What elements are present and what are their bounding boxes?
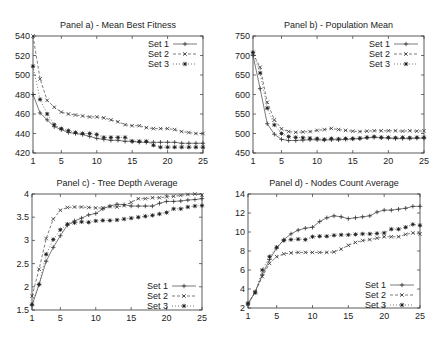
series-set-2 bbox=[251, 52, 426, 134]
data-point-dot bbox=[318, 235, 320, 237]
panel-title: Panel d) - Nodes Count Average bbox=[269, 178, 398, 188]
data-point-dot bbox=[53, 124, 55, 126]
data-point-dot bbox=[259, 72, 261, 74]
y-tick-label: 500 bbox=[235, 129, 250, 139]
series-set-3 bbox=[31, 64, 205, 149]
data-point-dot bbox=[81, 132, 83, 134]
data-point-dot bbox=[74, 131, 76, 133]
data-point-dot bbox=[309, 137, 311, 139]
series-set-2 bbox=[30, 192, 204, 298]
panel-d-nodes-count-average: Panel d) - Nodes Count Average2468101214… bbox=[235, 178, 425, 321]
y-tick-label: 750 bbox=[235, 31, 250, 41]
data-point-dot bbox=[116, 219, 118, 221]
data-point-dot bbox=[247, 302, 249, 304]
data-point-dot bbox=[354, 233, 356, 235]
data-point-dot bbox=[151, 214, 153, 216]
data-point-dot bbox=[109, 219, 111, 221]
y-tick-label: 12 bbox=[235, 208, 245, 218]
data-point-dot bbox=[419, 224, 421, 226]
x-tick-label: 25 bbox=[419, 156, 429, 166]
data-point-dot bbox=[369, 233, 371, 235]
data-point-dot bbox=[202, 146, 204, 148]
x-tick-label: 1 bbox=[245, 311, 250, 321]
y-tick-label: 2.5 bbox=[16, 259, 29, 269]
series-line bbox=[253, 54, 424, 133]
data-point-dot bbox=[280, 132, 282, 134]
data-point-dot bbox=[416, 136, 418, 138]
data-point-dot bbox=[130, 217, 132, 219]
x-tick-label: 15 bbox=[126, 313, 136, 323]
series-line bbox=[253, 52, 424, 139]
data-point-dot bbox=[252, 51, 254, 53]
data-point-dot bbox=[254, 292, 256, 294]
x-tick-label: 10 bbox=[91, 313, 101, 323]
data-point-dot bbox=[52, 238, 54, 240]
data-point-dot bbox=[380, 136, 382, 138]
x-tick-label: 10 bbox=[92, 156, 102, 166]
data-point-dot bbox=[184, 63, 186, 65]
y-tick-label: 450 bbox=[235, 148, 250, 158]
data-point-dot bbox=[181, 146, 183, 148]
data-point-dot bbox=[387, 136, 389, 138]
data-point-dot bbox=[287, 135, 289, 137]
legend-label: Set 1 bbox=[148, 39, 169, 49]
data-point-dot bbox=[32, 65, 34, 67]
data-point-dot bbox=[59, 229, 61, 231]
legend-label: Set 2 bbox=[365, 290, 386, 300]
data-point-dot bbox=[165, 211, 167, 213]
figure: Panel a) - Mean Best Fitness420440460480… bbox=[0, 0, 447, 340]
data-point-dot bbox=[352, 137, 354, 139]
y-tick-label: 10 bbox=[235, 227, 245, 237]
legend-label: Set 3 bbox=[365, 300, 386, 310]
legend: Set 1Set 2Set 3 bbox=[365, 280, 414, 310]
x-tick-label: 1 bbox=[250, 156, 255, 166]
y-tick-label: 2 bbox=[24, 282, 29, 292]
y-tick-label: 520 bbox=[15, 51, 30, 61]
legend-label: Set 2 bbox=[147, 291, 168, 301]
data-point-dot bbox=[194, 205, 196, 207]
y-tick-label: 550 bbox=[235, 109, 250, 119]
series-set-1 bbox=[30, 196, 204, 307]
data-point-dot bbox=[376, 232, 378, 234]
data-point-dot bbox=[373, 135, 375, 137]
data-point-dot bbox=[188, 146, 190, 148]
data-point-dot bbox=[297, 238, 299, 240]
data-point-dot bbox=[273, 124, 275, 126]
x-tick-label: 5 bbox=[59, 156, 64, 166]
plot-frame bbox=[248, 194, 420, 308]
series-line bbox=[32, 194, 202, 296]
series-set-3 bbox=[30, 203, 204, 306]
data-point-dot bbox=[172, 208, 174, 210]
data-point-dot bbox=[73, 222, 75, 224]
data-point-dot bbox=[359, 137, 361, 139]
data-point-dot bbox=[275, 246, 277, 248]
x-tick-label: 10 bbox=[307, 311, 317, 321]
y-tick-label: 3 bbox=[24, 235, 29, 245]
data-point-dot bbox=[180, 208, 182, 210]
data-point-dot bbox=[66, 223, 68, 225]
panel-c-tree-depth-average: Panel c) - Tree Depth Average1.522.533.5… bbox=[16, 178, 207, 323]
series-line bbox=[253, 56, 424, 141]
plot-frame bbox=[32, 194, 202, 310]
data-point-dot bbox=[401, 304, 403, 306]
data-point-dot bbox=[268, 256, 270, 258]
series-line bbox=[33, 66, 203, 147]
y-tick-label: 480 bbox=[15, 90, 30, 100]
legend-label: Set 1 bbox=[365, 280, 386, 290]
legend: Set 1Set 2Set 3 bbox=[147, 281, 196, 311]
plot-frame bbox=[253, 36, 424, 153]
data-point-dot bbox=[187, 206, 189, 208]
y-tick-label: 540 bbox=[15, 31, 30, 41]
x-tick-label: 20 bbox=[383, 156, 393, 166]
x-tick-label: 25 bbox=[198, 156, 208, 166]
data-point-dot bbox=[38, 283, 40, 285]
x-tick-label: 15 bbox=[343, 311, 353, 321]
data-point-dot bbox=[201, 204, 203, 206]
y-tick-label: 700 bbox=[235, 51, 250, 61]
data-point-dot bbox=[195, 146, 197, 148]
data-point-dot bbox=[383, 232, 385, 234]
x-tick-label: 1 bbox=[29, 313, 34, 323]
y-tick-label: 500 bbox=[15, 70, 30, 80]
legend-label: Set 3 bbox=[147, 301, 168, 311]
data-point-dot bbox=[87, 221, 89, 223]
